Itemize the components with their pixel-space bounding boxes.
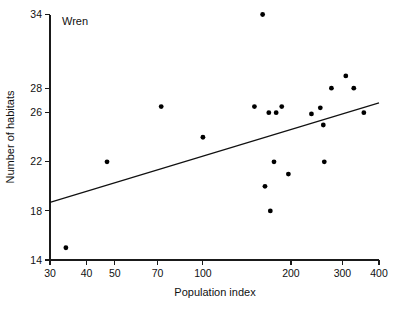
y-axis-ticks: 141822262834 — [30, 8, 50, 266]
data-point — [159, 104, 164, 109]
data-point — [279, 104, 284, 109]
y-tick-label-22: 22 — [30, 155, 42, 167]
series-annotation-label: Wren — [62, 15, 88, 27]
data-point — [351, 86, 356, 91]
data-point — [105, 159, 110, 164]
y-tick-label-14: 14 — [30, 254, 42, 266]
y-tick-label-26: 26 — [30, 106, 42, 118]
y-axis-title: Number of habitats — [4, 90, 16, 183]
data-point — [268, 209, 273, 214]
data-point — [322, 159, 327, 164]
x-tick-label-100: 100 — [194, 267, 212, 279]
data-point — [286, 172, 291, 177]
x-axis-title: Population index — [174, 286, 256, 298]
chart-figure: 141822262834 30405070100200300400 Wren P… — [0, 0, 400, 309]
data-point — [266, 110, 271, 115]
y-tick-label-18: 18 — [30, 205, 42, 217]
data-point — [361, 110, 366, 115]
y-tick-label-34: 34 — [30, 8, 42, 20]
data-point — [309, 112, 314, 117]
data-point — [201, 135, 206, 140]
axes — [50, 15, 379, 261]
data-point — [63, 245, 68, 250]
data-point — [252, 104, 257, 109]
data-point — [329, 86, 334, 91]
y-tick-label-28: 28 — [30, 82, 42, 94]
data-point — [321, 123, 326, 128]
data-point — [260, 12, 265, 17]
data-point — [343, 73, 348, 78]
data-point — [274, 110, 279, 115]
x-tick-label-300: 300 — [334, 267, 352, 279]
x-tick-label-50: 50 — [109, 267, 121, 279]
data-point — [263, 184, 268, 189]
data-point — [272, 159, 277, 164]
x-tick-label-400: 400 — [370, 267, 388, 279]
x-tick-label-200: 200 — [282, 267, 300, 279]
x-axis-ticks: 30405070100200300400 — [44, 260, 388, 279]
data-point — [318, 105, 323, 110]
x-tick-label-70: 70 — [152, 267, 164, 279]
data-points-group — [63, 12, 366, 250]
x-tick-label-40: 40 — [81, 267, 93, 279]
scatter-plot-canvas: 141822262834 30405070100200300400 Wren P… — [0, 0, 400, 309]
regression-trendline — [50, 103, 379, 202]
x-tick-label-30: 30 — [44, 267, 56, 279]
